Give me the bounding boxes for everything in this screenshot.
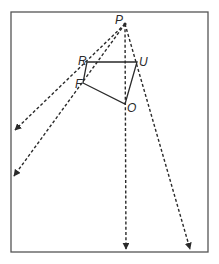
frame-border xyxy=(11,12,208,252)
label-U: U xyxy=(139,55,148,69)
label-R: R xyxy=(78,54,87,68)
source-point-P xyxy=(123,22,126,25)
rays xyxy=(14,24,190,249)
ray-through-U xyxy=(125,24,190,249)
ray-through-R xyxy=(15,24,125,130)
label-F: F xyxy=(75,77,83,91)
quadrilateral-RUOF xyxy=(83,62,137,104)
label-P: P xyxy=(115,13,123,27)
ray-diagram: P R U F O xyxy=(0,0,219,264)
ray-through-F xyxy=(14,24,125,176)
ray-through-O xyxy=(125,24,126,249)
label-O: O xyxy=(127,101,136,115)
